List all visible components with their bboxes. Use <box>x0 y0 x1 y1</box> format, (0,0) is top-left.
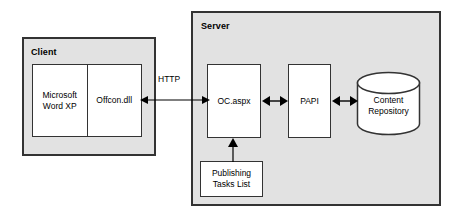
node-content-repository-label: Content Repository <box>356 95 421 117</box>
edge-papi-repository-connector <box>332 94 358 108</box>
node-papi: PAPI <box>288 64 331 138</box>
server-container-title: Server <box>201 21 230 31</box>
node-offcon-dll: Offcon.dll <box>88 65 142 136</box>
node-offcon-dll-label: Offcon.dll <box>96 95 132 106</box>
node-oc-aspx: OC.aspx <box>207 64 261 138</box>
node-content-repository: Content Repository <box>356 71 421 136</box>
client-container-title: Client <box>31 47 57 57</box>
node-papi-label: PAPI <box>300 96 319 107</box>
client-components-box: Microsoft Word XP Offcon.dll <box>32 64 142 137</box>
node-oc-aspx-label: OC.aspx <box>217 96 250 107</box>
edge-tasks-oc-connector <box>226 138 240 162</box>
edge-oc-papi-connector <box>262 94 288 108</box>
edge-http-connector <box>140 93 210 107</box>
node-microsoft-word-xp: Microsoft Word XP <box>33 65 88 136</box>
architecture-diagram: Client Microsoft Word XP Offcon.dll Serv… <box>0 0 457 223</box>
node-publishing-tasks-list-label: Publishing Tasks List <box>212 168 251 190</box>
edge-http-label: HTTP <box>158 74 180 84</box>
node-microsoft-word-xp-label: Microsoft Word XP <box>43 90 77 112</box>
node-publishing-tasks-list: Publishing Tasks List <box>200 161 263 197</box>
